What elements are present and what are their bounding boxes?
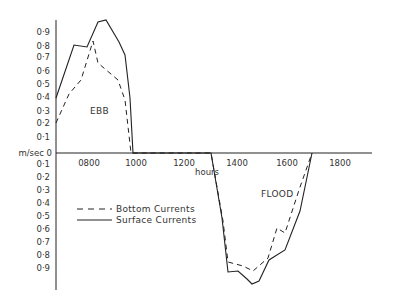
tidal-current-chart: 0·9 0·8 0·7 0·6 0·5 0·4 0·3 0·2 0·1 m/se… bbox=[0, 0, 393, 308]
svg-text:0·2: 0·2 bbox=[36, 172, 50, 182]
svg-text:hours: hours bbox=[195, 167, 219, 177]
svg-text:0·1: 0·1 bbox=[36, 132, 50, 142]
svg-text:m/sec 0: m/sec 0 bbox=[18, 148, 52, 158]
svg-text:0·4: 0·4 bbox=[36, 92, 50, 102]
svg-text:0·3: 0·3 bbox=[36, 185, 50, 195]
svg-text:0·2: 0·2 bbox=[36, 118, 50, 128]
y-ticks-upper: 0·9 0·8 0·7 0·6 0·5 0·4 0·3 0·2 0·1 m/se… bbox=[18, 27, 52, 158]
svg-text:0·8: 0·8 bbox=[36, 41, 50, 51]
svg-text:0·1: 0·1 bbox=[36, 159, 50, 169]
svg-text:0·4: 0·4 bbox=[36, 198, 50, 208]
svg-text:1400: 1400 bbox=[226, 158, 248, 168]
svg-text:1000: 1000 bbox=[125, 158, 147, 168]
svg-text:0·9: 0·9 bbox=[36, 27, 50, 37]
svg-text:0·5: 0·5 bbox=[36, 79, 50, 89]
svg-text:1800: 1800 bbox=[329, 158, 351, 168]
svg-text:0·7: 0·7 bbox=[36, 237, 50, 247]
ebb-label: EBB bbox=[90, 106, 109, 116]
svg-text:0·7: 0·7 bbox=[36, 52, 50, 62]
svg-text:0800: 0800 bbox=[78, 158, 100, 168]
legend-surface-currents: Surface Currents bbox=[116, 215, 196, 225]
legend: Bottom Currents Surface Currents bbox=[77, 204, 196, 225]
svg-text:0·8: 0·8 bbox=[36, 250, 50, 260]
svg-text:0·6: 0·6 bbox=[36, 66, 50, 76]
surface-currents-line bbox=[56, 20, 312, 284]
svg-text:0·3: 0·3 bbox=[36, 106, 50, 116]
legend-bottom-currents: Bottom Currents bbox=[116, 204, 195, 214]
y-ticks-lower: 0·1 0·2 0·3 0·4 0·5 0·6 0·7 0·8 0·9 bbox=[36, 159, 50, 273]
bottom-currents-line bbox=[56, 41, 312, 271]
svg-text:1200: 1200 bbox=[173, 158, 195, 168]
svg-text:0·6: 0·6 bbox=[36, 224, 50, 234]
svg-text:1600: 1600 bbox=[276, 158, 298, 168]
svg-text:0·9: 0·9 bbox=[36, 263, 50, 273]
svg-text:0·5: 0·5 bbox=[36, 211, 50, 221]
flood-label: FLOOD bbox=[261, 189, 293, 199]
